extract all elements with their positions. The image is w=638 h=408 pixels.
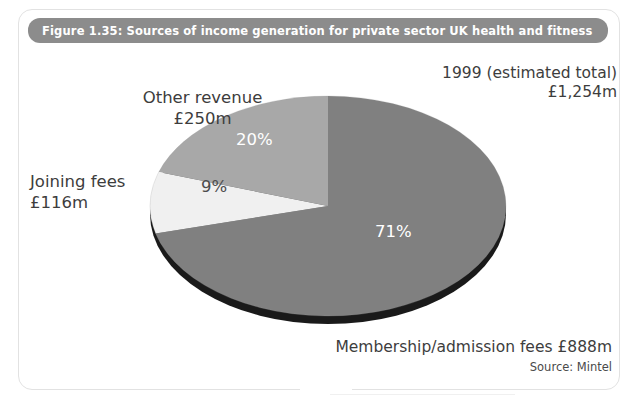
total-annotation-line1: 1999 (estimated total) [442,64,617,82]
joining-fees-value: £116m [30,193,175,214]
total-annotation: 1999 (estimated total) £1,254m [404,64,617,103]
joining-fees-annotation: Joining fees £116m [30,172,175,213]
other-revenue-label: Other revenue [143,88,263,107]
pie-percent-joining-fees: 9% [201,177,227,196]
other-revenue-value: £250m [110,109,295,130]
frame-notch [300,387,352,392]
pie-percent-membership: 71% [375,222,412,241]
pie-percent-other-revenue: 20% [236,130,273,149]
source-note: Source: Mintel [300,360,612,374]
figure-title: Figure 1.35: Sources of income generatio… [28,24,592,38]
joining-fees-label: Joining fees [30,172,125,191]
membership-annotation: Membership/admission fees £888m [300,338,612,357]
total-annotation-line2: £1,254m [404,83,617,102]
figure-title-bar: Figure 1.35: Sources of income generatio… [28,18,608,43]
other-revenue-annotation: Other revenue £250m [110,88,295,129]
frame-underline [330,394,515,395]
